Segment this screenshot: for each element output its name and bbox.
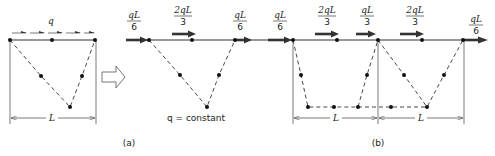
caption-a: (a) <box>123 138 136 148</box>
svg-text:qL: qL <box>234 10 246 20</box>
distributed-load-icon <box>12 31 95 33</box>
force-label: qL 6 <box>469 14 483 36</box>
force-label: qL 6 <box>273 10 287 32</box>
cable-left <box>293 40 378 107</box>
svg-text:6: 6 <box>131 22 137 32</box>
svg-text:6: 6 <box>237 22 243 32</box>
force-arrow-icon <box>331 31 339 38</box>
svg-text:6: 6 <box>277 22 283 32</box>
svg-text:6: 6 <box>473 26 479 36</box>
svg-text:qL: qL <box>470 14 482 24</box>
force-arrow-icon <box>284 37 292 44</box>
force-label: qL 6 <box>233 10 247 32</box>
force-arrow-icon <box>416 31 424 38</box>
svg-text:3: 3 <box>324 17 330 27</box>
nodes <box>147 38 237 109</box>
force-label: 2qL 3 <box>317 5 336 27</box>
panel-a-equivalent: qL 6 2qL 3 qL 6 q = constant (a) <box>123 5 252 148</box>
cable-right <box>378 40 463 107</box>
constant-note: q = constant <box>167 113 226 123</box>
force-label: 2qL 3 <box>173 5 192 27</box>
svg-text:2qL: 2qL <box>173 5 191 15</box>
svg-text:3: 3 <box>180 17 186 27</box>
svg-text:qL: qL <box>361 5 373 15</box>
span-label: L <box>48 113 55 123</box>
force-label: qL 3 <box>360 5 374 27</box>
svg-text:2qL: 2qL <box>405 5 423 15</box>
caption-b: (b) <box>372 138 385 148</box>
force-label: 2qL 3 <box>405 5 424 27</box>
svg-text:2qL: 2qL <box>317 5 335 15</box>
force-label: qL 6 <box>127 10 141 32</box>
svg-text:3: 3 <box>412 17 418 27</box>
panel-a-original: q L <box>8 16 97 124</box>
truss-load-diagram: q L qL 6 2qL <box>0 0 495 156</box>
hollow-right-arrow-icon <box>102 66 125 88</box>
svg-text:qL: qL <box>274 10 286 20</box>
force-arrow-icon <box>188 31 196 38</box>
svg-text:qL: qL <box>128 10 140 20</box>
span-label: L <box>417 113 424 123</box>
svg-text:3: 3 <box>364 17 370 27</box>
force-arrow-icon <box>140 37 148 44</box>
force-arrow-icon <box>478 37 488 44</box>
load-label-q: q <box>48 16 54 26</box>
nodes <box>8 38 97 109</box>
panel-b: qL 6 2qL 3 qL 3 2qL 3 qL 6 <box>240 5 488 148</box>
force-arrow-icon <box>368 31 376 38</box>
span-label: L <box>332 113 339 123</box>
cable <box>149 40 235 107</box>
cable <box>10 40 95 107</box>
